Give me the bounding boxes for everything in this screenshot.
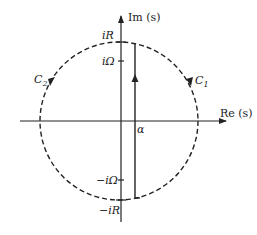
label-C2: C2 (34, 73, 48, 88)
contour-diagram: Im (s) Re (s) iR iΩ −iΩ −iR α C1 C2 (0, 0, 257, 235)
c2-arrow-icon (48, 77, 55, 86)
label-alpha: α (137, 123, 145, 136)
imag-axis-label: Im (s) (128, 11, 161, 24)
upward-arrow-icon (132, 74, 139, 82)
label-iOmega: iΩ (102, 55, 115, 68)
real-axis-label: Re (s) (220, 107, 253, 120)
label-neg-iR: −iR (99, 204, 120, 217)
label-C1: C1 (195, 74, 209, 89)
label-iR: iR (102, 29, 114, 42)
label-neg-iOmega: −iΩ (96, 174, 118, 187)
